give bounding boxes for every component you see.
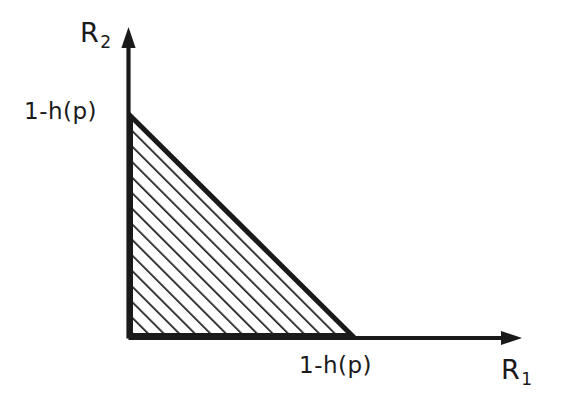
y-intercept-tick-label: 1-h(p): [24, 100, 97, 123]
x-axis-name-label: R1: [501, 356, 532, 383]
plot-background: [0, 0, 569, 401]
x-axis-name-subscript: 1: [521, 369, 532, 389]
rate-region-plot: [0, 0, 569, 401]
x-axis-name-base: R: [501, 354, 520, 385]
y-axis-name-label: R2: [80, 19, 111, 46]
x-intercept-tick-label: 1-h(p): [299, 354, 372, 377]
y-axis-name-base: R: [80, 17, 99, 48]
figure-canvas: R2 R1 1-h(p) 1-h(p): [0, 0, 569, 401]
y-axis-name-subscript: 2: [100, 32, 111, 52]
